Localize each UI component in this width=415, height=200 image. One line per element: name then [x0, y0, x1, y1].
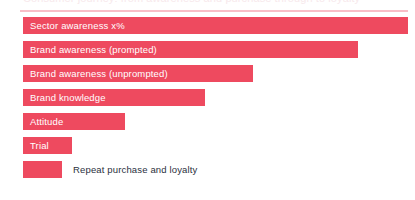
bar-row[interactable]: Trial	[23, 137, 72, 154]
bar-row[interactable]: Sector awareness x%	[23, 17, 408, 34]
bar-row[interactable]: Attitude	[23, 113, 125, 130]
bar-label: Attitude	[30, 113, 63, 130]
bar-rect[interactable]	[23, 161, 62, 178]
bars-container: Sector awareness x%Brand awareness (prom…	[0, 0, 415, 200]
bar-row[interactable]: Brand knowledge	[23, 89, 205, 106]
bar-label: Brand knowledge	[30, 89, 106, 106]
bar-label: Sector awareness x%	[30, 17, 125, 34]
bar-label: Trial	[30, 137, 49, 154]
bar-label: Brand awareness (prompted)	[30, 41, 157, 58]
funnel-bar-chart: Consumer journey: from awareness and pur…	[0, 0, 415, 200]
bar-label: Brand awareness (unprompted)	[30, 65, 168, 82]
bar-row[interactable]: Brand awareness (unprompted)	[23, 65, 253, 82]
bar-row[interactable]: Brand awareness (prompted)	[23, 41, 358, 58]
bar-label: Repeat purchase and loyalty	[73, 161, 197, 178]
bar-row[interactable]: Repeat purchase and loyalty	[23, 161, 62, 178]
